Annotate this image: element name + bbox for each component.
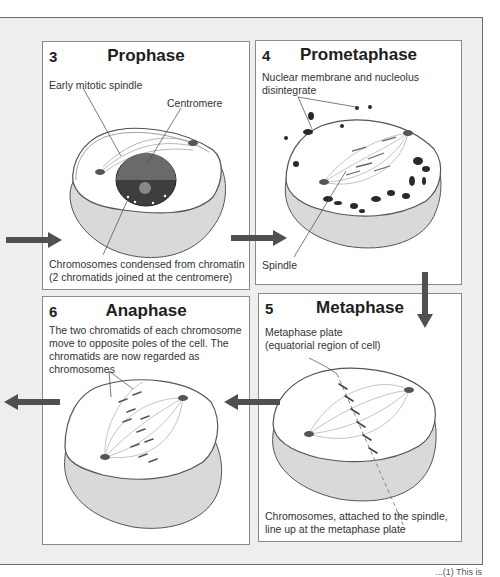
centriole-icon xyxy=(188,140,198,146)
arrow-left-icon xyxy=(4,394,60,410)
label-chromatids-joined: (2 chromatids joined at the centromere) xyxy=(49,271,232,284)
panel-anaphase: 6 Anaphase The two chromatids of each ch… xyxy=(42,296,250,545)
label-spindle: Spindle xyxy=(262,259,297,272)
panel-prophase: 3 Prophase Early mitotic spindle Centrom… xyxy=(42,41,250,290)
anaphase-cell-illustration xyxy=(43,297,249,544)
label-chromosomes-attached: Chromosomes, attached to the spindle, xyxy=(265,510,448,523)
centriole-icon xyxy=(95,169,105,175)
prophase-cell-illustration xyxy=(43,42,249,289)
arrow-right-icon xyxy=(231,230,287,246)
label-chromosomes-condensed: Chromosomes condensed from chromatin xyxy=(49,258,245,271)
footer-text-fragment: ...(1) This is xyxy=(435,567,482,577)
panel-prometaphase: 4 Prometaphase Nuclear membrane and nucl… xyxy=(255,40,462,285)
arrow-right-icon xyxy=(6,232,62,248)
metaphase-cell-illustration xyxy=(259,294,461,541)
prometaphase-cell-illustration xyxy=(256,41,461,284)
arrow-down-icon xyxy=(417,272,433,328)
panel-metaphase: 5 Metaphase Metaphase plate (equatorial … xyxy=(258,293,462,542)
arrow-left-icon xyxy=(224,394,280,410)
label-line-up: line up at the metaphase plate xyxy=(265,523,406,536)
